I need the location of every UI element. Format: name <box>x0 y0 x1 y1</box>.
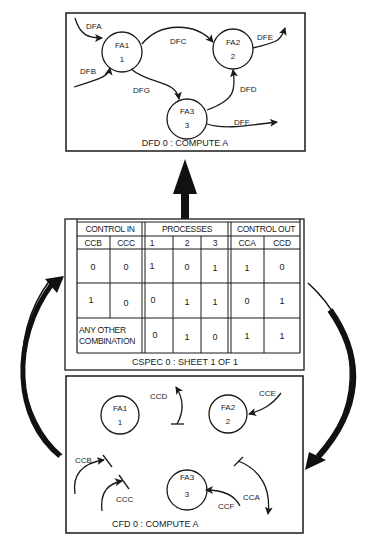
col-header-ccd: CCD <box>273 238 291 248</box>
dfd-process-fa2[interactable]: FA2 2 <box>213 29 253 69</box>
svg-text:1: 1 <box>212 263 217 273</box>
svg-text:0: 0 <box>90 262 95 272</box>
dfd-diagram: FA1 1 FA2 2 FA3 3 DFA DFB DFC DFD <box>66 13 305 151</box>
cfd-flow-ccd: CCD <box>150 387 184 424</box>
dfd-flow-dfc: DFC <box>142 27 213 46</box>
process-name: FA3 <box>180 473 195 482</box>
svg-text:COMBINATION: COMBINATION <box>79 336 135 346</box>
process-number: 3 <box>185 490 190 499</box>
cfd-flow-ccc: CCC <box>102 475 134 511</box>
cfd-process-fa3[interactable]: FA3 3 <box>167 470 207 510</box>
svg-text:0: 0 <box>184 262 189 272</box>
svg-text:1: 1 <box>279 331 284 341</box>
header-processes: PROCESSES <box>162 224 213 234</box>
svg-text:CCA: CCA <box>243 493 261 502</box>
svg-text:DFB: DFB <box>80 67 96 76</box>
table-row: 0 0 1 0 1 1 0 <box>90 261 284 273</box>
dfd-flow-dfd: DFD <box>207 70 257 110</box>
svg-text:1: 1 <box>149 261 154 271</box>
svg-text:0: 0 <box>244 296 249 306</box>
svg-text:1: 1 <box>184 332 189 342</box>
cspec-caption: CSPEC 0 : SHEET 1 OF 1 <box>132 357 238 367</box>
svg-text:1: 1 <box>212 297 217 307</box>
svg-text:DFC: DFC <box>170 37 187 46</box>
svg-text:1: 1 <box>244 263 249 273</box>
process-number: 1 <box>120 55 125 64</box>
cfd-process-fa1[interactable]: FA1 1 <box>101 396 139 434</box>
cspec-table: CONTROL IN PROCESSES CONTROL OUT CCB CCC… <box>65 219 304 370</box>
table-row: ANY OTHER COMBINATION 0 1 0 1 1 <box>79 325 285 346</box>
svg-text:1: 1 <box>184 297 189 307</box>
svg-text:0: 0 <box>150 295 155 305</box>
left-curved-arrow-icon <box>23 276 64 456</box>
svg-text:DFA: DFA <box>86 22 102 31</box>
process-name: FA2 <box>226 38 241 47</box>
dfd-process-fa1[interactable]: FA1 1 <box>102 32 142 72</box>
header-control-out: CONTROL OUT <box>237 224 295 234</box>
dfd-process-fa3[interactable]: FA3 3 <box>167 99 207 139</box>
process-number: 2 <box>226 417 231 426</box>
up-arrow-icon <box>173 159 197 219</box>
col-header-process-1: 1 <box>150 238 155 248</box>
dfd-flow-dfg: DFG <box>131 69 179 99</box>
col-header-process-3: 3 <box>213 238 218 248</box>
col-header-process-2: 2 <box>185 238 190 248</box>
cfd-diagram: FA1 1 FA2 2 FA3 3 CCD CCE CCB <box>66 376 303 533</box>
svg-text:CCB: CCB <box>75 456 92 465</box>
col-header-ccb: CCB <box>84 238 102 248</box>
svg-text:0: 0 <box>212 332 217 342</box>
cfd-process-fa2[interactable]: FA2 2 <box>209 395 247 433</box>
svg-text:1: 1 <box>88 295 93 305</box>
dfd-flow-dfe: DFE <box>253 28 285 48</box>
header-control-in: CONTROL IN <box>85 224 134 234</box>
svg-text:CCC: CCC <box>116 495 134 504</box>
svg-text:0: 0 <box>152 330 157 340</box>
process-name: FA2 <box>221 403 236 412</box>
process-name: FA1 <box>115 41 130 50</box>
cfd-flow-cce: CCE <box>249 389 281 414</box>
col-header-ccc: CCC <box>117 238 135 248</box>
svg-text:0: 0 <box>123 262 128 272</box>
dfd-flow-dfb: DFB <box>74 67 110 87</box>
svg-text:DFE: DFE <box>257 33 273 42</box>
process-number: 3 <box>185 121 190 130</box>
svg-text:DFD: DFD <box>240 85 257 94</box>
svg-text:CCD: CCD <box>150 392 168 401</box>
col-header-cca: CCA <box>238 238 256 248</box>
process-name: FA3 <box>180 107 195 116</box>
dfd-flow-dfa: DFA <box>75 18 102 38</box>
svg-text:DFF: DFF <box>234 118 250 127</box>
dfd-caption: DFD 0 : COMPUTE A <box>142 138 229 148</box>
cfd-caption: CFD 0 : COMPUTE A <box>112 519 199 529</box>
svg-text:ANY OTHER: ANY OTHER <box>79 325 126 335</box>
svg-text:1: 1 <box>279 296 284 306</box>
dfd-flow-dff: DFF <box>207 118 277 127</box>
table-row: 1 0 0 1 1 0 1 <box>88 295 284 308</box>
cfd-flow-ccb: CCB <box>74 455 112 494</box>
svg-text:0: 0 <box>279 262 284 272</box>
svg-text:DFG: DFG <box>133 86 150 95</box>
svg-text:CCF: CCF <box>218 502 235 511</box>
right-curved-arrow-icon <box>305 283 353 470</box>
process-number: 1 <box>118 418 123 427</box>
svg-text:CCE: CCE <box>259 389 276 398</box>
process-name: FA1 <box>113 404 128 413</box>
cfd-flow-ccf: CCF <box>206 490 240 511</box>
svg-text:1: 1 <box>244 331 249 341</box>
svg-text:0: 0 <box>123 298 128 308</box>
process-number: 2 <box>231 52 236 61</box>
